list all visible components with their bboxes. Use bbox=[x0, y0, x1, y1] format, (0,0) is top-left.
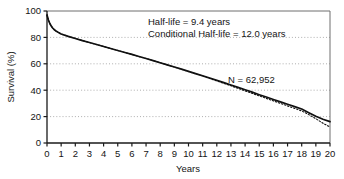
x-tick-label-5: 5 bbox=[115, 148, 120, 159]
x-tick-label-14: 14 bbox=[240, 148, 251, 159]
y-tick-label-80: 80 bbox=[30, 32, 41, 43]
y-tick-label-20: 20 bbox=[30, 111, 41, 122]
x-tick-label-15: 15 bbox=[254, 148, 265, 159]
annotation-sample-size: N = 62,952 bbox=[228, 74, 275, 85]
x-tick-label-11: 11 bbox=[198, 148, 208, 159]
x-tick-label-13: 13 bbox=[226, 148, 237, 159]
x-tick-label-20: 20 bbox=[325, 148, 336, 159]
y-tick-label-60: 60 bbox=[30, 58, 41, 69]
x-tick-label-17: 17 bbox=[282, 148, 293, 159]
survival-chart: 020406080100 012345678910111213141516171… bbox=[0, 0, 344, 179]
x-tick-label-18: 18 bbox=[296, 148, 307, 159]
x-tick-label-8: 8 bbox=[158, 148, 163, 159]
annotation-conditional-half-life: Conditional Half-life = 12.0 years bbox=[148, 28, 286, 39]
x-tick-label-3: 3 bbox=[87, 148, 92, 159]
x-tick-label-19: 19 bbox=[311, 148, 322, 159]
x-tick-label-4: 4 bbox=[101, 148, 106, 159]
y-tick-label-100: 100 bbox=[25, 5, 41, 16]
x-tick-label-12: 12 bbox=[212, 148, 223, 159]
y-tick-label-0: 0 bbox=[36, 137, 41, 148]
chart-svg: 020406080100 012345678910111213141516171… bbox=[0, 0, 344, 179]
y-axis-title: Survival (%) bbox=[5, 51, 16, 102]
x-tick-label-0: 0 bbox=[44, 148, 49, 159]
x-tick-label-2: 2 bbox=[73, 148, 78, 159]
x-tick-label-6: 6 bbox=[129, 148, 134, 159]
x-tick-label-9: 9 bbox=[172, 148, 177, 159]
annotation-half-life: Half-life = 9.4 years bbox=[148, 16, 230, 27]
x-tick-label-10: 10 bbox=[183, 148, 194, 159]
x-tick-label-1: 1 bbox=[59, 148, 64, 159]
y-tick-label-40: 40 bbox=[30, 85, 41, 96]
x-axis-title: Years bbox=[176, 163, 200, 174]
x-tick-label-16: 16 bbox=[268, 148, 279, 159]
x-tick-label-7: 7 bbox=[143, 148, 148, 159]
